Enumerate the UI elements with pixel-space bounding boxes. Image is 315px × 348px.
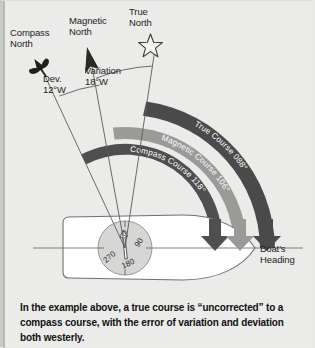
- label-boats-heading: Boat's Heading: [260, 244, 295, 265]
- label-true-north: True North: [129, 7, 152, 28]
- label-deviation: Dev. 12°W: [43, 74, 66, 95]
- star-icon: [139, 34, 163, 57]
- navigation-diagram: True Course 088° Magnetic Course 106° Co…: [3, 1, 315, 348]
- label-magnetic-north: Magnetic North: [69, 16, 107, 37]
- boat-hull: [63, 215, 255, 280]
- label-variation: Variation 18°W: [85, 66, 121, 87]
- label-compass-north: Compass North: [10, 28, 49, 49]
- figure-caption: In the example above, a true course is “…: [20, 300, 300, 345]
